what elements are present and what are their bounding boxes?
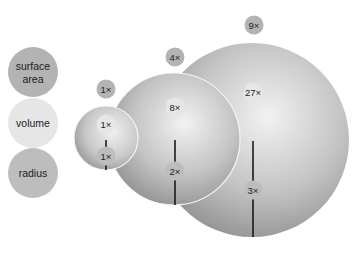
small-surface-area-badge-group: 1× <box>97 80 116 99</box>
legend-label-radius: radius <box>19 167 48 179</box>
sphere-small: 1× 1× <box>74 106 138 170</box>
medium-surface-area-badge-group: 4× <box>166 48 185 67</box>
medium-radius-label: 2× <box>170 166 181 177</box>
small-surface-area-label: 1× <box>101 84 112 95</box>
legend-label-area: area <box>22 73 43 85</box>
legend-surface-area: surface area <box>8 47 58 97</box>
small-volume-label: 1× <box>101 119 112 130</box>
large-volume-label: 27× <box>245 87 261 98</box>
legend-label-volume: volume <box>16 117 50 129</box>
legend: surface area volume radius <box>8 47 58 198</box>
sphere-scaling-diagram: surface area volume radius 27× 3× 9× 8× … <box>0 0 363 253</box>
legend-label-surface: surface <box>16 60 51 72</box>
large-surface-area-label: 9× <box>249 20 260 31</box>
small-radius-label: 1× <box>101 151 112 162</box>
legend-volume: volume <box>8 98 58 148</box>
surface-area-swatch <box>8 47 58 97</box>
medium-volume-label: 8× <box>170 102 181 113</box>
large-surface-area-badge-group: 9× <box>245 16 264 35</box>
legend-radius: radius <box>8 148 58 198</box>
medium-surface-area-label: 4× <box>170 52 181 63</box>
large-radius-label: 3× <box>248 185 259 196</box>
